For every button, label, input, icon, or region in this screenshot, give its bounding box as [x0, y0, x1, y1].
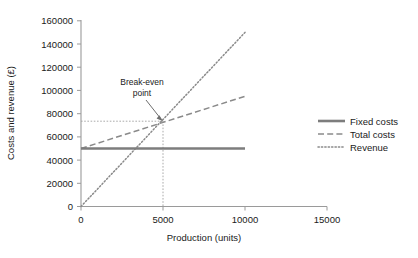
legend-label-revenue: Revenue: [350, 142, 388, 153]
chart-svg: 160000 140000 120000 100000 80000 60000 …: [0, 0, 418, 258]
legend: Fixed costs Total costs Revenue: [318, 116, 398, 153]
y-tick-label-0: 0: [68, 201, 73, 212]
break-even-chart: 160000 140000 120000 100000 80000 60000 …: [0, 0, 418, 258]
break-even-label-line2: point: [133, 88, 152, 98]
legend-label-total-costs: Total costs: [350, 129, 395, 140]
legend-label-fixed-costs: Fixed costs: [350, 116, 398, 127]
y-tick-label-120000: 120000: [41, 62, 73, 73]
x-axis-title: Production (units): [167, 232, 241, 243]
x-tick-label-15000: 15000: [314, 214, 340, 225]
x-tick-label-10000: 10000: [232, 214, 258, 225]
x-tick-label-0: 0: [78, 214, 83, 225]
y-axis-title: Costs and revenue (£): [5, 66, 16, 160]
x-tick-label-5000: 5000: [152, 214, 173, 225]
y-tick-label-160000: 160000: [41, 15, 73, 26]
y-tick-label-40000: 40000: [47, 155, 73, 166]
y-tick-label-140000: 140000: [41, 39, 73, 50]
y-tick-label-100000: 100000: [41, 85, 73, 96]
y-tick-label-60000: 60000: [47, 131, 73, 142]
break-even-label-line1: Break-even: [120, 77, 164, 87]
y-tick-label-20000: 20000: [47, 178, 73, 189]
y-tick-label-80000: 80000: [47, 108, 73, 119]
